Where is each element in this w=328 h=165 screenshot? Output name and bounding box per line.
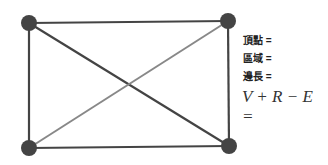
- graph-diagram: [0, 0, 328, 165]
- vertex-top-right: [220, 13, 236, 29]
- vertices-label: 頂點 =: [243, 32, 272, 47]
- edge-bottom: [29, 146, 229, 148]
- regions-label: 區域 =: [243, 50, 272, 65]
- edges-label: 邊長 =: [243, 68, 272, 83]
- edge-right: [228, 21, 229, 146]
- edge-top: [29, 21, 228, 23]
- vertex-top-left: [21, 15, 37, 31]
- euler-formula: V + R − E =: [242, 87, 328, 127]
- edge-diagonal-tr-bl: [29, 21, 228, 148]
- vertex-bottom-left: [21, 140, 37, 156]
- vertex-bottom-right: [221, 138, 237, 154]
